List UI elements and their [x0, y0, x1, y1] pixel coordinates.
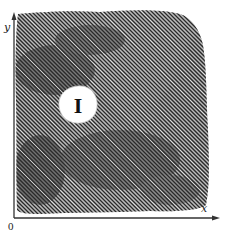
hole-region: I [59, 86, 97, 123]
x-axis-label: x [201, 202, 208, 215]
diagram-canvas: I y x 0 [0, 0, 232, 233]
region-label-i: I [74, 93, 83, 118]
y-axis-arrow-icon [12, 12, 17, 20]
y-axis-label: y [3, 21, 11, 34]
x-axis-arrow-icon [212, 216, 220, 221]
figure: I y x 0 [0, 0, 232, 233]
hatched-region [0, 0, 232, 233]
origin-label: 0 [8, 220, 14, 232]
